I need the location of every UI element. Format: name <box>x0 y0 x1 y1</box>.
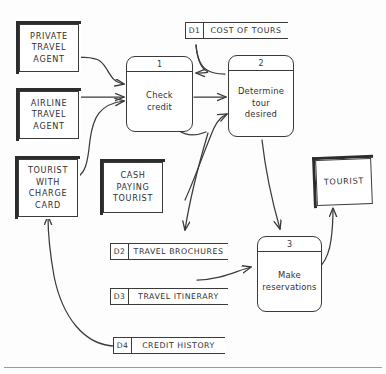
entity-label-tourist-with-charge-card: TOURIST WITH CHARGE CARD <box>26 165 70 211</box>
datastore-d3-travel-itinerary[interactable]: D3 TRAVEL ITINERARY <box>110 288 228 305</box>
process-number-2: 2 <box>229 56 293 71</box>
datastore-name-d4: CREDIT HISTORY <box>132 338 225 353</box>
flow-d4-to-charge-card-tourist <box>48 216 116 346</box>
page-bottom-rule <box>4 367 382 368</box>
process-number-3: 3 <box>258 237 321 252</box>
entity-label-tourist: TOURIST <box>322 175 367 188</box>
datastore-name-d2: TRAVEL BROCHURES <box>129 244 228 259</box>
flow-d3-to-make-reservations <box>197 267 251 280</box>
flow-d1-curve-part <box>196 45 225 74</box>
entity-tourist[interactable]: TOURIST <box>315 158 373 206</box>
process-number-1: 1 <box>127 57 192 72</box>
process-name-determine-tour-desired: Determine tour desired <box>236 71 286 136</box>
process-name-make-reservations: Make reservations <box>260 252 318 311</box>
entity-cash-paying-tourist[interactable]: CASH PAYING TOURIST <box>103 162 163 213</box>
process-make-reservations[interactable]: 3 Make reservations <box>257 236 322 312</box>
entity-tourist-with-charge-card[interactable]: TOURIST WITH CHARGE CARD <box>18 159 78 217</box>
datastore-id-d2: D2 <box>111 244 129 259</box>
flow-determine-tour-to-d2 <box>185 133 208 230</box>
datastore-d1-cost-of-tours[interactable]: D1 COST OF TOURS <box>185 22 288 39</box>
datastore-d4-credit-history[interactable]: D4 CREDIT HISTORY <box>113 337 225 354</box>
process-name-check-credit: Check credit <box>144 72 175 131</box>
datastore-id-d3: D3 <box>111 289 129 304</box>
flow-determine-tour-to-make-reservations <box>262 140 280 229</box>
entity-label-airline-travel-agent: AIRLINE TRAVEL AGENT <box>29 98 70 133</box>
process-check-credit[interactable]: 1 Check credit <box>126 56 193 132</box>
entity-airline-travel-agent[interactable]: AIRLINE TRAVEL AGENT <box>19 91 79 139</box>
entity-private-travel-agent[interactable]: PRIVATE TRAVEL AGENT <box>19 24 79 72</box>
process-determine-tour-desired[interactable]: 2 Determine tour desired <box>228 55 294 137</box>
datastore-id-d4: D4 <box>114 338 132 353</box>
datastore-d2-travel-brochures[interactable]: D2 TRAVEL BROCHURES <box>110 243 228 260</box>
datastore-name-d3: TRAVEL ITINERARY <box>129 289 228 304</box>
entity-label-private-travel-agent: PRIVATE TRAVEL AGENT <box>28 31 70 66</box>
datastore-id-d1: D1 <box>186 23 204 38</box>
datastore-name-d1: COST OF TOURS <box>204 23 288 38</box>
flow-private-agent-to-check-credit <box>78 57 124 84</box>
dfd-canvas: PRIVATE TRAVEL AGENT AIRLINE TRAVEL AGEN… <box>0 0 386 374</box>
entity-label-cash-paying-tourist: CASH PAYING TOURIST <box>111 170 155 205</box>
